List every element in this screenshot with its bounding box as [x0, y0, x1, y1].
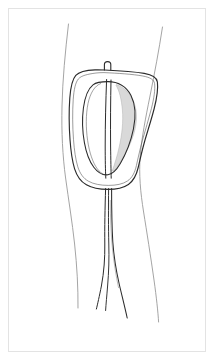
- left-body-contour: [62, 24, 78, 308]
- line-drawing-illustration: [0, 0, 215, 362]
- top-nub: [104, 62, 110, 71]
- center-line-left: [105, 80, 106, 179]
- oval-shading: [112, 85, 136, 171]
- strand-right: [112, 189, 128, 319]
- center-line-right: [111, 80, 112, 178]
- page-canvas: Hand-drawn anatomical line sketch: [0, 0, 215, 362]
- strand-left: [96, 189, 105, 310]
- right-body-contour: [140, 27, 163, 322]
- inner-oval-echo: [86, 83, 105, 175]
- strand-middle: [106, 189, 109, 311]
